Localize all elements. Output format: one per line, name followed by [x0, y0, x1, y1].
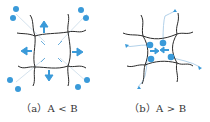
diagram-b [105, 0, 210, 100]
diagram-a [0, 0, 105, 100]
inward-arrows [41, 41, 62, 62]
inward-arrows [150, 47, 169, 54]
cell-boundary [123, 13, 193, 84]
caption-b: （b）A > B [129, 100, 186, 115]
outward-arrows [21, 21, 83, 81]
caption-a: （a）A < B [21, 100, 78, 115]
